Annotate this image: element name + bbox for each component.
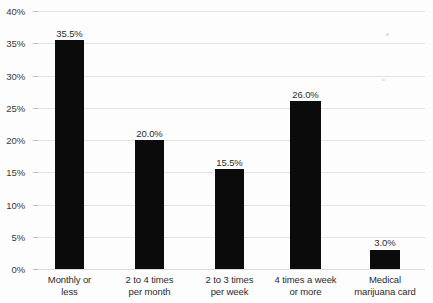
chart-title-cropped <box>70 0 220 5</box>
bar-monthly-or-less[interactable] <box>55 40 84 269</box>
scan-speck <box>382 79 385 81</box>
bar-2-to-3-times-per-week[interactable] <box>215 169 244 269</box>
y-tick-label-15: 15% <box>0 167 25 178</box>
gridline-baseline <box>38 269 425 270</box>
bar-value-2-to-4-times-per-month: 20.0% <box>136 128 162 139</box>
y-tick-label-30: 30% <box>0 70 25 81</box>
x-category-label-medical-marijuana-card: Medical marijuana card <box>337 274 433 297</box>
y-tick-label-25: 25% <box>0 102 25 113</box>
bar-chart: 0% 5% 10% 15% 20% 25% 30% 35% 40% <box>0 0 433 303</box>
bar-medical-marijuana-card[interactable] <box>370 250 400 269</box>
bar-value-2-to-3-times-per-week: 15.5% <box>216 157 242 168</box>
bar-2-to-4-times-per-month[interactable] <box>135 140 164 269</box>
y-tick-label-5: 5% <box>0 231 25 242</box>
y-tick-label-20: 20% <box>0 135 25 146</box>
bar-value-monthly-or-less: 35.5% <box>56 28 82 39</box>
gridline-25 <box>38 108 425 109</box>
gridline-20 <box>38 140 425 141</box>
y-tick-label-35: 35% <box>0 38 25 49</box>
gridline-40 <box>38 11 425 12</box>
y-tick-label-40: 40% <box>0 6 25 17</box>
gridline-30 <box>38 76 425 77</box>
bar-value-4-times-a-week-or-more: 26.0% <box>292 89 318 100</box>
bar-4-times-a-week-or-more[interactable] <box>290 101 321 269</box>
scan-speck <box>386 33 389 36</box>
plot-area <box>38 11 425 269</box>
y-tick-label-0: 0% <box>0 264 25 275</box>
gridline-35 <box>38 43 425 44</box>
bar-value-medical-marijuana-card: 3.0% <box>374 237 395 248</box>
y-tick-label-10: 10% <box>0 199 25 210</box>
